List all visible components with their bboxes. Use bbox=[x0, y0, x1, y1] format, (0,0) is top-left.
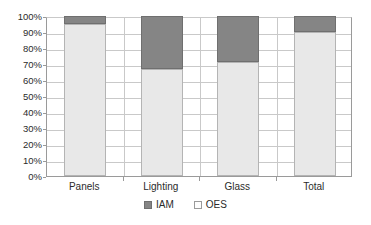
bar-segment-iam[interactable] bbox=[294, 16, 336, 32]
y-axis-tick-label: 80% bbox=[0, 44, 42, 54]
y-axis-tick bbox=[43, 49, 46, 50]
y-axis-tick-label: 0% bbox=[0, 172, 42, 182]
y-axis-tick-label: 90% bbox=[0, 28, 42, 38]
x-axis-tick-label: Panels bbox=[46, 180, 123, 194]
x-axis-tick bbox=[123, 177, 124, 181]
bar-segment-iam[interactable] bbox=[217, 16, 259, 62]
y-axis-tick bbox=[43, 113, 46, 114]
bar-segment-oes[interactable] bbox=[217, 62, 259, 176]
legend-item-iam: IAM bbox=[144, 199, 174, 210]
bar-segment-oes[interactable] bbox=[141, 69, 183, 176]
y-axis-tick bbox=[43, 17, 46, 18]
chart-legend: IAM OES bbox=[0, 199, 371, 210]
x-axis: PanelsLightingGlassTotal bbox=[46, 180, 352, 198]
y-axis-tick bbox=[43, 177, 46, 178]
y-axis-tick bbox=[43, 97, 46, 98]
y-axis-tick-label: 100% bbox=[0, 12, 42, 22]
y-axis-tick-label: 60% bbox=[0, 76, 42, 86]
y-axis-tick-label: 10% bbox=[0, 156, 42, 166]
y-axis-tick-label: 40% bbox=[0, 108, 42, 118]
y-axis-tick-label: 20% bbox=[0, 140, 42, 150]
bar-series bbox=[47, 18, 351, 176]
legend-label-iam: IAM bbox=[156, 199, 174, 210]
stacked-bar-chart: 0%10%20%30%40%50%60%70%80%90%100% Panels… bbox=[0, 0, 371, 225]
y-axis-tick bbox=[43, 145, 46, 146]
x-axis-tick-label: Lighting bbox=[123, 180, 200, 194]
stacked-bar[interactable] bbox=[64, 16, 106, 176]
bar-segment-iam[interactable] bbox=[64, 16, 106, 24]
y-axis: 0%10%20%30%40%50%60%70%80%90%100% bbox=[0, 0, 42, 225]
bar-group[interactable] bbox=[47, 18, 124, 176]
stacked-bar[interactable] bbox=[217, 16, 259, 176]
y-axis-tick bbox=[43, 129, 46, 130]
y-axis-tick bbox=[43, 65, 46, 66]
legend-swatch-oes-icon bbox=[194, 201, 202, 209]
legend-swatch-iam-icon bbox=[144, 201, 152, 209]
bar-segment-oes[interactable] bbox=[294, 32, 336, 176]
x-axis-tick-label: Glass bbox=[199, 180, 276, 194]
y-axis-tick bbox=[43, 33, 46, 34]
x-axis-tick bbox=[276, 177, 277, 181]
y-axis-tick-label: 50% bbox=[0, 92, 42, 102]
bar-segment-iam[interactable] bbox=[141, 16, 183, 69]
y-axis-tick-label: 70% bbox=[0, 60, 42, 70]
bar-segment-oes[interactable] bbox=[64, 24, 106, 176]
legend-item-oes: OES bbox=[194, 199, 227, 210]
stacked-bar[interactable] bbox=[141, 16, 183, 176]
plot-area bbox=[46, 17, 352, 177]
x-axis-tick-label: Total bbox=[276, 180, 353, 194]
x-axis-tick bbox=[199, 177, 200, 181]
bar-group[interactable] bbox=[200, 18, 277, 176]
stacked-bar[interactable] bbox=[294, 16, 336, 176]
bar-group[interactable] bbox=[124, 18, 201, 176]
y-axis-tick-label: 30% bbox=[0, 124, 42, 134]
legend-label-oes: OES bbox=[206, 199, 227, 210]
y-axis-tick bbox=[43, 161, 46, 162]
bar-group[interactable] bbox=[277, 18, 354, 176]
y-axis-tick bbox=[43, 81, 46, 82]
